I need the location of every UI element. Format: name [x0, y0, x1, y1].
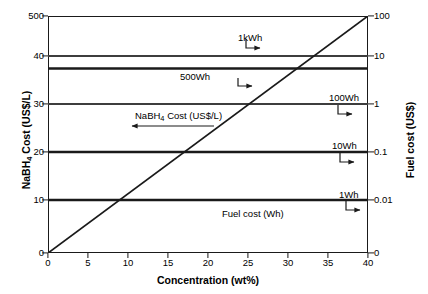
nabh4-cost-diagonal-line	[48, 16, 368, 253]
x-tickmark-40	[367, 253, 368, 258]
arrow-10wh	[340, 153, 354, 162]
arrow-500wh	[238, 78, 252, 86]
annotation-100wh: 100Wh	[329, 92, 359, 103]
x-tick-10: 10	[123, 258, 134, 268]
left-tickmark-500	[42, 15, 48, 16]
x-tick-15: 15	[163, 258, 174, 268]
annotation-1kwh: 1kWh	[238, 32, 262, 43]
x-tickmark-25	[247, 253, 248, 258]
x-tickmark-15	[167, 253, 168, 258]
left-axis-title-sub: 4	[25, 157, 34, 161]
right-tickmark-0p01	[368, 199, 374, 200]
left-tickmark-30	[42, 103, 48, 104]
right-tickmark-0	[368, 252, 374, 253]
x-tickmark-35	[327, 253, 328, 258]
chart-data-layer	[48, 16, 368, 253]
x-tick-20: 20	[203, 258, 214, 268]
right-tickmark-0p1	[368, 151, 374, 152]
annotation-nabh4-pre: NaBH	[135, 110, 160, 121]
right-tick-100: 100	[374, 11, 390, 21]
arrow-100wh	[338, 105, 352, 114]
annotation-10wh: 10Wh	[332, 140, 357, 151]
right-tickmark-10	[368, 55, 374, 56]
left-tickmark-20	[42, 151, 48, 152]
annotation-500wh: 500Wh	[180, 71, 210, 82]
right-tickmark-1	[368, 103, 374, 104]
annotation-nabh4-cost: NaBH4 Cost (US$/L)	[135, 110, 222, 122]
left-axis-title: NaBH4 Cost (US$/L)	[20, 60, 32, 220]
x-tick-0: 0	[45, 258, 50, 268]
x-tick-40: 40	[363, 258, 374, 268]
annotation-nabh4-post: Cost (US$/L)	[165, 110, 223, 121]
left-tickmark-10	[42, 199, 48, 200]
annotation-1wh: 1Wh	[339, 189, 359, 200]
right-tick-1: 1	[374, 99, 379, 109]
left-tickmark-40	[42, 55, 48, 56]
x-tick-30: 30	[283, 258, 294, 268]
arrow-1wh	[346, 201, 360, 210]
x-tickmark-20	[207, 253, 208, 258]
x-axis-title: Concentration (wt%)	[48, 274, 368, 286]
bottom-axis-tick-labels: 0 5 10 15 20 25 30 35 40	[0, 258, 428, 272]
right-tick-0: 0	[374, 248, 379, 258]
left-axis-title-post: Cost (US$/L)	[20, 91, 32, 157]
left-axis-title-pre: NaBH	[20, 161, 32, 190]
chart-figure: 1kWh 500Wh 100Wh 10Wh 1Wh NaBH4 Cost (US…	[0, 0, 428, 294]
annotation-nabh4-sub: 4	[160, 114, 164, 123]
x-tick-5: 5	[85, 258, 90, 268]
x-tickmark-30	[287, 253, 288, 258]
right-tick-10: 10	[374, 51, 385, 61]
x-tick-35: 35	[323, 258, 334, 268]
x-tickmark-0	[47, 253, 48, 258]
right-tick-0p1: 0.1	[374, 147, 387, 157]
right-tickmark-100	[368, 15, 374, 16]
right-tick-0p01: 0.01	[374, 195, 393, 205]
x-tickmark-5	[87, 253, 88, 258]
annotation-fuel-cost-wh: Fuel cost (Wh)	[222, 208, 284, 219]
right-axis-title: Fuel cost (US$)	[404, 60, 416, 220]
x-tickmark-10	[127, 253, 128, 258]
x-tick-25: 25	[243, 258, 254, 268]
